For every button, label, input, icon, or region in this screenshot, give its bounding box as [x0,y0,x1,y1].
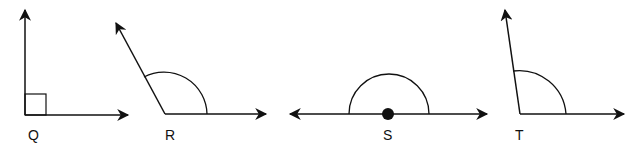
angle-arc-t [513,71,566,114]
angle-t: T [505,10,624,143]
label-s: S [383,127,392,143]
label-t: T [515,127,524,143]
right-angle-marker [25,94,46,115]
angle-s: S [290,74,487,143]
label-r: R [165,127,175,143]
label-q: Q [28,127,39,143]
angle-r: R [116,23,266,143]
ray-r-slanted [116,23,165,114]
angles-diagram: Q R S T [0,0,639,148]
vertex-dot-s [382,108,394,120]
angle-arc-s [349,74,429,114]
angle-q: Q [25,10,128,143]
ray-t-slanted [505,10,520,114]
